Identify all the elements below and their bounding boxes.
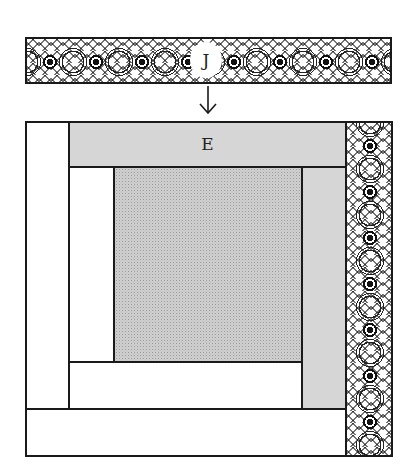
strip-j-label-badge: J xyxy=(193,45,219,75)
piece-top-band-e: E xyxy=(68,121,347,168)
piece-center xyxy=(113,166,303,363)
quilt-block: E xyxy=(25,121,393,457)
piece-e-label: E xyxy=(201,136,213,153)
piece-right-inner xyxy=(301,166,347,410)
arrow-down-icon xyxy=(198,86,218,116)
strip-j-label: J xyxy=(203,52,210,69)
piece-lower-inner xyxy=(68,361,303,410)
piece-left-outer xyxy=(25,121,70,410)
piece-bottom-outer xyxy=(25,408,347,457)
strip-j: J xyxy=(25,37,392,84)
piece-left-inner xyxy=(68,166,115,363)
piece-right-print xyxy=(345,121,393,457)
